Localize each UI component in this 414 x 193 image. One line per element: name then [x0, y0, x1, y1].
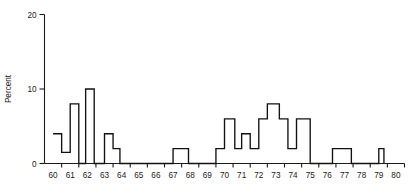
svg-text:Percent: Percent	[4, 74, 13, 103]
y-axis-title: Percent	[4, 74, 13, 103]
svg-text:79: 79	[374, 171, 384, 180]
plot-area: 01020 6061626364656667686970717273747576…	[0, 0, 414, 193]
svg-text:66: 66	[151, 171, 161, 180]
histogram-chart: 01020 6061626364656667686970717273747576…	[0, 0, 414, 193]
svg-text:72: 72	[254, 171, 264, 180]
svg-text:64: 64	[117, 171, 127, 180]
svg-text:70: 70	[220, 171, 230, 180]
svg-text:10: 10	[27, 85, 37, 94]
svg-text:20: 20	[27, 11, 37, 20]
histogram-series	[53, 89, 384, 164]
svg-text:68: 68	[186, 171, 196, 180]
svg-text:60: 60	[49, 171, 59, 180]
svg-text:71: 71	[237, 171, 247, 180]
svg-text:73: 73	[271, 171, 281, 180]
svg-text:74: 74	[289, 171, 299, 180]
y-axis-ticks	[40, 15, 45, 164]
svg-text:67: 67	[169, 171, 179, 180]
svg-text:78: 78	[357, 171, 367, 180]
svg-text:0: 0	[32, 160, 37, 169]
svg-text:75: 75	[306, 171, 316, 180]
svg-text:80: 80	[391, 171, 401, 180]
svg-text:69: 69	[203, 171, 213, 180]
y-axis-tick-labels: 01020	[27, 11, 37, 169]
svg-text:77: 77	[340, 171, 350, 180]
svg-text:62: 62	[83, 171, 93, 180]
svg-text:76: 76	[323, 171, 333, 180]
x-axis-tick-labels: 6061626364656667686970717273747576777879…	[49, 171, 401, 180]
svg-text:61: 61	[66, 171, 76, 180]
svg-text:63: 63	[100, 171, 110, 180]
svg-text:65: 65	[134, 171, 144, 180]
